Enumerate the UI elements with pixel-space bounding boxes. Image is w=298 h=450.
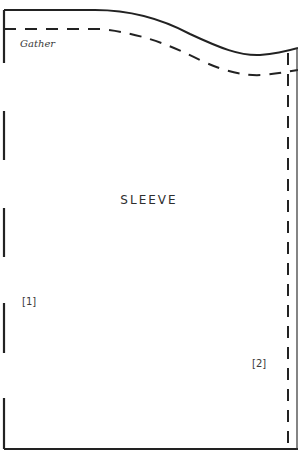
gather-label: Gather bbox=[20, 38, 55, 49]
marker-1-label: [1] bbox=[22, 296, 36, 307]
gather-stitch-line bbox=[4, 29, 298, 75]
marker-2-label: [2] bbox=[252, 358, 266, 369]
piece-title: SLEEVE bbox=[0, 193, 298, 207]
sleeve-pattern-diagram bbox=[0, 0, 298, 450]
